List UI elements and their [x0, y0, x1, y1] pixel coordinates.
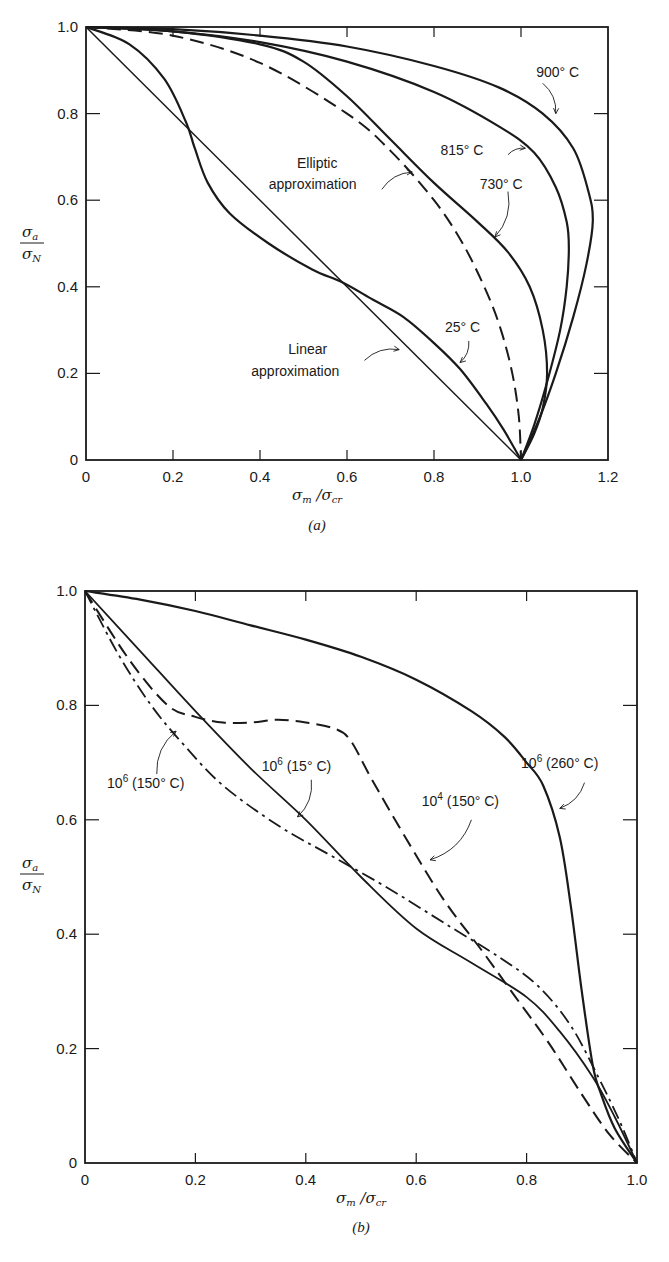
series-linear-approximation [86, 27, 521, 460]
leader-arrow [495, 192, 509, 237]
x-tick-label: 0.6 [337, 468, 358, 485]
figure-caption: (a) [308, 517, 326, 534]
x-tick-label: 0 [81, 1171, 89, 1188]
y-tick-label: 0.2 [56, 1040, 77, 1057]
svg-text:σN: σN [22, 245, 42, 264]
leader-arrow [157, 731, 176, 774]
x-axis-label: σm /σcr [336, 1189, 387, 1208]
svg-text:σa: σa [22, 854, 38, 873]
x-tick-label: 0.8 [516, 1171, 537, 1188]
curve-label: 104 (150° C) [422, 791, 499, 809]
series-815-c [86, 27, 569, 460]
x-axis-label: σm /σcr [292, 486, 343, 505]
y-tick-label: 0.2 [57, 364, 78, 381]
x-tick-label: 0 [82, 468, 90, 485]
y-axis-label: σaσN [20, 854, 44, 895]
x-tick-label: 0.6 [406, 1171, 427, 1188]
figure-caption: (b) [352, 1219, 370, 1236]
x-tick-label: 0.4 [250, 468, 271, 485]
y-tick-label: 0.4 [56, 925, 77, 942]
y-tick-label: 0 [69, 1154, 77, 1171]
curve-label: 106 (260° C) [521, 753, 598, 771]
curve-label: Elliptic [297, 155, 337, 171]
y-tick-label: 0 [70, 451, 78, 468]
leader-arrow [430, 820, 471, 860]
y-tick-label: 1.0 [57, 18, 78, 35]
x-tick-label: 0.8 [424, 468, 445, 485]
y-tick-label: 0.8 [56, 696, 77, 713]
curve-label: 815° C [441, 142, 484, 158]
plot-frame [86, 27, 608, 460]
chart-b-stress-ratio-cycles: 00.20.40.60.81.000.20.40.60.81.0106 (150… [20, 582, 647, 1236]
curve-label: 106 (15° C) [262, 756, 332, 774]
y-tick-label: 0.6 [56, 811, 77, 828]
x-tick-label: 1.2 [598, 468, 619, 485]
series-10-6-15-c- [85, 591, 637, 1163]
y-tick-label: 0.4 [57, 278, 78, 295]
svg-text:σN: σN [22, 876, 42, 895]
y-axis-label: σaσN [20, 223, 44, 264]
curve-label: approximation [251, 363, 339, 379]
curve-label: 25° C [445, 319, 480, 335]
x-tick-label: 0.2 [185, 1171, 206, 1188]
x-tick-label: 1.0 [511, 468, 532, 485]
svg-text:σa: σa [22, 223, 38, 242]
x-tick-label: 0.2 [163, 468, 184, 485]
curve-label: 106 (150° C) [107, 773, 184, 791]
series-730-c [86, 27, 547, 460]
y-tick-label: 1.0 [56, 582, 77, 599]
curve-label: 900° C [536, 64, 579, 80]
y-tick-label: 0.6 [57, 191, 78, 208]
curve-label: Linear [288, 341, 327, 357]
chart-a-stress-ratio-temperature: 00.20.40.60.81.01.200.20.40.60.81.0900° … [20, 18, 618, 534]
curve-label: approximation [269, 176, 357, 192]
x-tick-label: 1.0 [627, 1171, 648, 1188]
figure-canvas: 00.20.40.60.81.01.200.20.40.60.81.0900° … [0, 0, 669, 1262]
curve-label: 730° C [480, 176, 523, 192]
y-tick-label: 0.8 [57, 105, 78, 122]
x-tick-label: 0.4 [295, 1171, 316, 1188]
